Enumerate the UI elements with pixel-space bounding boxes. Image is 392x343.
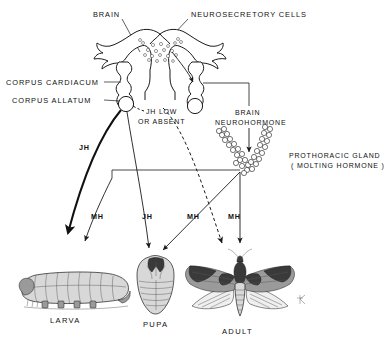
label-jh-to-larva: JH	[79, 143, 90, 152]
neurohormone-path	[203, 83, 249, 106]
label-jh-low-line2: OR ABSENT	[138, 118, 185, 125]
label-brain-neurohormone-line1: BRAIN	[235, 109, 260, 116]
label-jh-low-line1: JH LOW	[146, 108, 177, 115]
label-prothoracic-gland-line1: PROTHORACIC GLAND	[289, 152, 380, 159]
stage-adult-illustration	[186, 249, 306, 316]
label-jh-to-pupa: JH	[142, 212, 153, 221]
label-corpus-cardiacum: CORPUS CARDIACUM	[6, 78, 99, 87]
label-mh-to-adult: MH	[228, 212, 241, 221]
label-prothoracic-gland-line2: ( MOLTING HORMONE )	[291, 162, 385, 170]
label-brain-neurohormone-line2: NEUROHORMONE	[215, 119, 286, 126]
stage-pupa-illustration	[137, 256, 174, 315]
label-stage-adult: ADULT	[222, 327, 253, 336]
label-mh-to-larva: MH	[91, 212, 104, 221]
arrow-mh-to-larva	[85, 178, 112, 241]
artist-signature	[297, 295, 305, 304]
label-brain: BRAIN	[93, 10, 120, 19]
corpus-allatum-right	[187, 98, 202, 113]
label-mh-to-pupa: MH	[187, 212, 200, 221]
corpus-allatum-left	[118, 96, 133, 111]
arrow-jh-low-to-adult	[163, 108, 222, 243]
stage-larva-illustration	[19, 272, 130, 309]
arrow-jh-to-pupa	[127, 112, 149, 248]
label-corpus-allatum: CORPUS ALLATUM	[12, 96, 91, 105]
label-neurosecretory-cells: NEUROSECRETORY CELLS	[191, 10, 307, 19]
label-stage-pupa: PUPA	[143, 320, 168, 329]
brain-organ-group	[94, 29, 226, 113]
leader-jh-low	[133, 106, 144, 111]
label-stage-larva: LARVA	[50, 316, 81, 325]
insect-metamorphosis-diagram: BRAIN NEUROSECRETORY CELLS	[0, 0, 392, 343]
diagram-canvas: BRAIN NEUROSECRETORY CELLS	[0, 0, 392, 343]
arrow-mh-to-pupa	[163, 172, 240, 250]
prothoracic-gland	[216, 124, 272, 175]
